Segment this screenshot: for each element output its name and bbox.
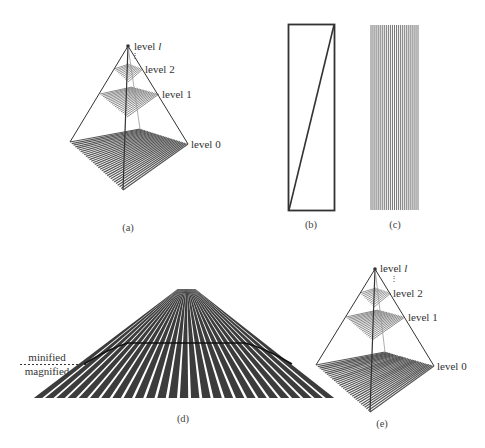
panel-e-level-2-label: level 2 — [393, 287, 423, 299]
panel-d-magnified-label: magnified — [25, 365, 70, 377]
panel-a-caption: (a) — [122, 222, 134, 234]
panel-d-minified-label: minified — [28, 351, 66, 363]
panel-a-level-2-label: level 2 — [145, 63, 175, 75]
panel-b-texture-quad — [289, 25, 335, 211]
panel-e-level-0-label: level 0 — [437, 360, 467, 372]
panel-c-caption: (c) — [389, 219, 401, 231]
panel-e-level-l-label: level l — [380, 262, 407, 274]
panel-a-ellipsis: ⋮ — [131, 51, 139, 60]
panel-e-ellipsis: ⋮ — [390, 274, 398, 283]
panel-a-level-1-label: level 1 — [162, 88, 192, 100]
mipmap-figure: level l ⋮ level 2 level 1 level 0 (a) (b… — [0, 0, 485, 448]
panel-e-caption: (e) — [376, 418, 388, 430]
panel-e-level-1-label: level 1 — [408, 311, 438, 323]
panel-c-stripe-texture — [371, 25, 418, 210]
panel-a-level-0-label: level 0 — [191, 138, 221, 150]
panel-b-caption: (b) — [305, 219, 318, 231]
panel-d-caption: (d) — [177, 413, 190, 425]
